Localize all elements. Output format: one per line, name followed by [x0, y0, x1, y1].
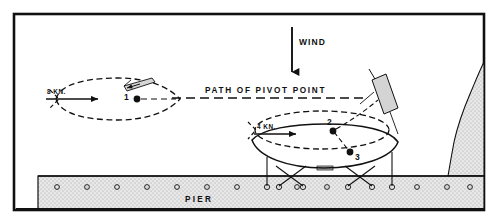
diagram-canvas: WIND PATH OF PIVOT POINT 8 KN. 4 KN. 1 2…	[0, 0, 498, 224]
pivot-point-1-label: 1	[124, 92, 129, 102]
speed-label-8kn: 8 KN.	[47, 88, 66, 95]
path-of-pivot-point-label: PATH OF PIVOT POINT	[205, 86, 326, 95]
pivot-point-2-label: 2	[327, 117, 332, 127]
diagram-svg	[0, 0, 498, 224]
pivot-point-2-marker	[330, 128, 337, 135]
wind-label: WIND	[299, 37, 326, 47]
pivot-point-3-marker	[347, 149, 354, 156]
speed-label-4kn: 4 KN.	[257, 123, 276, 130]
pier-deck	[38, 176, 484, 210]
pivot-point-3-label: 3	[355, 152, 360, 162]
pier-label: PIER	[185, 195, 213, 204]
pivot-point-1-marker	[134, 96, 141, 103]
